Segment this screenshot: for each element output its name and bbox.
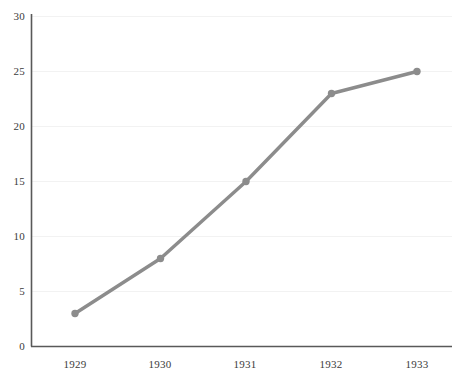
data-series-line xyxy=(75,72,417,314)
x-tick-label-1929: 1929 xyxy=(50,358,100,370)
data-point-1930 xyxy=(157,255,164,262)
x-tick-label-1931: 1931 xyxy=(220,358,270,370)
data-point-1933 xyxy=(413,68,420,75)
gridlines-horizontal xyxy=(31,17,452,292)
data-point-1932 xyxy=(328,90,335,97)
y-tick-label-30: 30 xyxy=(1,10,25,22)
x-tick-label-1930: 1930 xyxy=(135,358,185,370)
y-tick-label-25: 25 xyxy=(1,65,25,77)
y-tick-label-0: 0 xyxy=(1,340,25,352)
data-point-1931 xyxy=(242,178,249,185)
y-tick-label-20: 20 xyxy=(1,120,25,132)
line-chart: 30 25 20 15 10 5 0 1929 1930 1931 1932 1… xyxy=(0,0,464,387)
x-tick-label-1932: 1932 xyxy=(306,358,356,370)
y-tick-label-10: 10 xyxy=(1,230,25,242)
data-point-markers xyxy=(71,68,420,317)
x-tick-label-1933: 1933 xyxy=(392,358,442,370)
chart-plot-area xyxy=(0,0,464,387)
data-point-1929 xyxy=(71,310,78,317)
y-tick-label-15: 15 xyxy=(1,175,25,187)
y-tick-label-5: 5 xyxy=(1,285,25,297)
